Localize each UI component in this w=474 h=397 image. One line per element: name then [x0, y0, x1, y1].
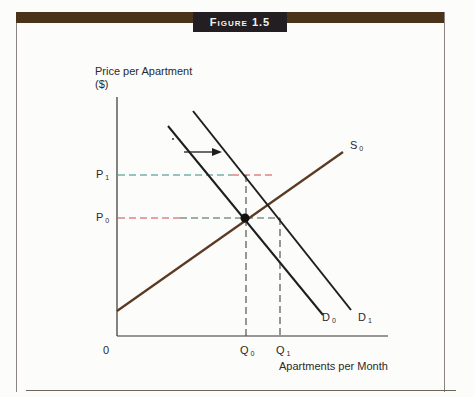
- d0-text: D: [322, 311, 330, 323]
- p0-label: P0: [96, 211, 109, 224]
- s0-label: S0: [350, 139, 363, 152]
- p1-text: P: [96, 168, 103, 180]
- q0-label: Q0: [240, 344, 254, 357]
- x-axis-label: Apartments per Month: [279, 360, 388, 372]
- p1-subscript: 1: [105, 174, 109, 181]
- q1-label: Q1: [276, 344, 290, 357]
- y-axis-label-line1: Price per Apartment: [95, 65, 192, 78]
- p0-text: P: [96, 211, 103, 223]
- q0-subscript: 0: [251, 350, 255, 357]
- p1-label: P1: [96, 168, 109, 181]
- origin-label: 0: [103, 344, 109, 356]
- shift-arrow-head: [212, 148, 222, 156]
- y-axis-label: Price per Apartment ($): [95, 65, 192, 91]
- stray-dot: [172, 138, 174, 140]
- d1-label: D1: [358, 311, 372, 324]
- equilibrium-point: [241, 214, 250, 223]
- d0-label: D0: [322, 311, 336, 324]
- d1-text: D: [358, 311, 366, 323]
- s0-subscript: 0: [359, 145, 363, 152]
- p0-subscript: 0: [105, 217, 109, 224]
- q0-text: Q: [240, 344, 249, 356]
- y-axis-label-line2: ($): [95, 78, 192, 91]
- d0-subscript: 0: [332, 317, 336, 324]
- q1-subscript: 1: [287, 350, 291, 357]
- d1-subscript: 1: [368, 317, 372, 324]
- demand-curve-d1: [193, 111, 351, 310]
- s0-text: S: [350, 139, 357, 151]
- supply-curve-s0: [117, 152, 343, 311]
- q1-text: Q: [276, 344, 285, 356]
- supply-demand-chart: [0, 0, 474, 397]
